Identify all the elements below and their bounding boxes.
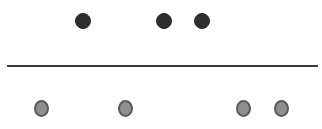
gray-dot bbox=[34, 100, 49, 117]
gray-dot bbox=[274, 100, 289, 117]
horizontal-divider-line bbox=[7, 65, 318, 67]
gray-dot bbox=[236, 100, 251, 117]
dark-dot bbox=[75, 13, 91, 29]
dark-dot bbox=[156, 13, 172, 29]
dark-dot bbox=[194, 13, 210, 29]
gray-dot bbox=[118, 100, 133, 117]
dot-diagram bbox=[0, 0, 322, 129]
